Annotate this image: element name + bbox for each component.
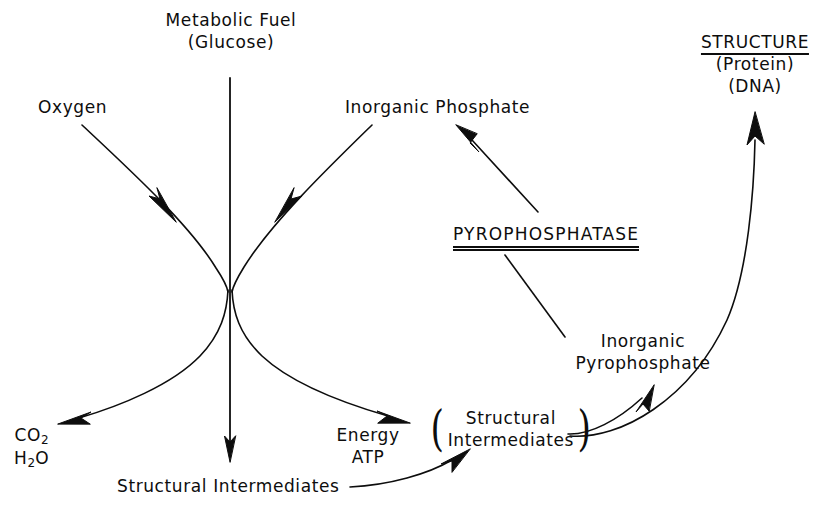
energy-label: Energy (336, 425, 399, 447)
node-pyrophosphatase: PYROPHOSPHATASE (453, 224, 639, 248)
node-co2-h2o: CO2 H2O (14, 425, 49, 472)
edge-pyrophosphate-arrowhead (636, 385, 654, 412)
node-energy-atp: Energy ATP (336, 425, 399, 469)
metabolic-fuel-line2: (Glucose) (166, 32, 297, 54)
edge-oxygen-to-waist (82, 125, 228, 292)
node-pyrophosphatase-wrap: PYROPHOSPHATASE (453, 224, 639, 246)
h2o-symbol-o: O (35, 448, 49, 468)
node-inorganic-phosphate: Inorganic Phosphate (345, 97, 530, 119)
h2o-symbol-h: H (14, 448, 27, 468)
edge-bottom-to-oval-arrowhead (441, 449, 470, 472)
structure-heading: STRUCTURE (701, 32, 809, 55)
node-oxygen: Oxygen (38, 97, 107, 119)
edge-waist-to-co2 (79, 290, 228, 418)
oval-line2: Intermediates (448, 429, 574, 451)
node-metabolic-fuel: Metabolic Fuel (Glucose) (166, 10, 297, 54)
edge-energy-arrowhead (377, 411, 410, 423)
edge-co2-arrowhead (58, 412, 91, 424)
edge-pyrophosphate-to-phosphate-upper (472, 140, 538, 212)
edge-waist-to-energy (232, 290, 388, 416)
edge-pyrophosphate-to-phosphate-lower (505, 255, 565, 337)
oval-text-block: Structural Intermediates (447, 407, 575, 451)
node-inorganic-pyrophosphate: Inorganic Pyrophosphate (575, 330, 710, 375)
oval-left-paren: ( (431, 409, 444, 448)
inorganic-pyrophosphate-line1: Inorganic (575, 330, 710, 352)
node-structural-intermediates-oval: ( Structural Intermediates ) (428, 407, 594, 451)
oval-right-paren: ) (578, 409, 591, 448)
co2-formula: CO2 (14, 425, 49, 448)
inorganic-pyrophosphate-line2: Pyrophosphate (575, 352, 710, 374)
edge-oval-to-structure (570, 140, 755, 436)
node-structure: STRUCTURE (Protein) (DNA) (701, 32, 809, 97)
co2-symbol: CO (14, 425, 40, 445)
structure-line3: (DNA) (701, 76, 809, 98)
structure-heading-wrap: STRUCTURE (701, 32, 809, 54)
node-structural-intermediates-bottom: Structural Intermediates (117, 476, 339, 498)
edge-phosphate-up-arrowhead (456, 125, 479, 152)
structure-line2: (Protein) (701, 54, 809, 76)
oval-line1: Structural (448, 407, 574, 429)
atp-label: ATP (336, 447, 399, 469)
edge-phosphate-to-waist (232, 125, 372, 292)
diagram-canvas: Metabolic Fuel (Glucose) Oxygen Inorgani… (0, 0, 827, 517)
metabolic-fuel-line1: Metabolic Fuel (166, 10, 297, 32)
h2o-formula: H2O (14, 448, 49, 471)
edge-phosphate-arrowhead (275, 188, 302, 222)
co2-subscript: 2 (41, 433, 49, 447)
